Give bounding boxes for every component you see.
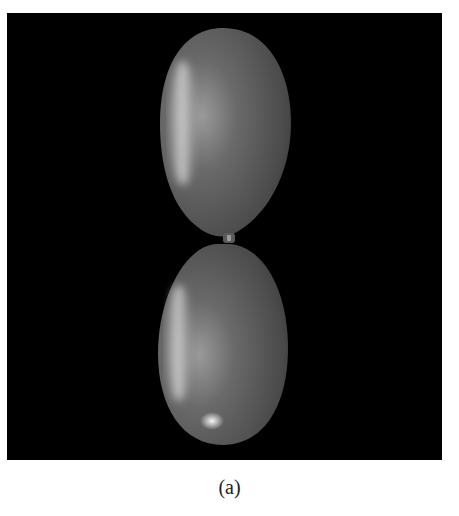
balloon-knot (223, 233, 235, 243)
top-balloon (160, 28, 291, 237)
figure-caption: (a) (0, 476, 459, 499)
balloons-photo (7, 13, 442, 460)
bottom-balloon (158, 244, 288, 445)
